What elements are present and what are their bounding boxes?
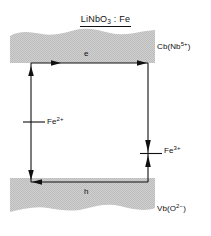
fe3-label-prefix: Fe (164, 146, 174, 155)
fe3-label-charge: 3+ (174, 145, 181, 151)
fe3-level-label: Fe3+ (164, 147, 181, 155)
conduction-band-label-prefix: Cb(Nb (157, 42, 181, 51)
figure-title-tail: : Fe (111, 14, 130, 24)
conduction-band-label: Cb(Nb5+) (157, 43, 190, 51)
figure-title: LiNbO3 : Fe (80, 14, 131, 27)
figure-title-wrapper: LiNbO3 : Fe (0, 8, 211, 27)
fe3-arrowhead-up (145, 155, 151, 167)
valence-band-label-suffix: ) (183, 204, 186, 213)
band-diagram-figure (0, 0, 211, 236)
fe2-level-label: Fe2+ (47, 118, 64, 126)
fe3-arrowhead-down (145, 140, 151, 152)
figure-title-subscript: 3 (107, 18, 111, 25)
conduction-band-label-suffix: ) (188, 42, 191, 51)
valence-band-label-charge: 2− (176, 203, 183, 209)
valence-band-label: Vb(O2−) (157, 205, 186, 213)
figure-title-main: LiNbO (81, 14, 108, 24)
fe2-label-charge: 2+ (57, 116, 64, 122)
conduction-band-label-charge: 5+ (181, 41, 188, 47)
hole-label: h (84, 188, 89, 196)
valence-band-slab (10, 178, 155, 212)
fe2-label-prefix: Fe (47, 117, 57, 126)
valence-band-label-prefix: Vb(O (157, 204, 176, 213)
left-arrowhead-up (28, 66, 34, 76)
electron-label: e (84, 50, 89, 58)
conduction-band-slab (10, 29, 155, 63)
